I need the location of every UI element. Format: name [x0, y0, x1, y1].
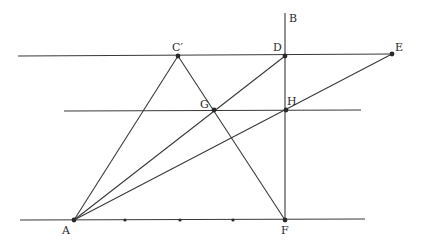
- label-c-prime: C′: [172, 41, 183, 54]
- label-f: F: [281, 224, 289, 237]
- point-e: [390, 52, 395, 57]
- label-h: H: [287, 95, 297, 108]
- point-h: [284, 108, 289, 113]
- tick-point: [231, 218, 234, 221]
- segment-ad: [74, 56, 285, 220]
- label-g: G: [200, 98, 209, 111]
- point-a: [72, 218, 77, 223]
- geometry-diagram: A B C′ D E F G H: [0, 0, 424, 243]
- tick-point: [178, 218, 181, 221]
- label-d: D: [273, 41, 282, 54]
- label-e: E: [395, 41, 403, 54]
- point-d: [283, 54, 288, 59]
- label-a: A: [61, 224, 71, 237]
- point-g: [212, 108, 217, 113]
- segment-ae: [74, 54, 392, 220]
- top-parallel-line: [18, 54, 392, 56]
- tick-point: [123, 218, 126, 221]
- label-b: B: [289, 12, 297, 25]
- point-f: [283, 218, 288, 223]
- segment-ac: [74, 56, 178, 220]
- point-c: [176, 54, 181, 59]
